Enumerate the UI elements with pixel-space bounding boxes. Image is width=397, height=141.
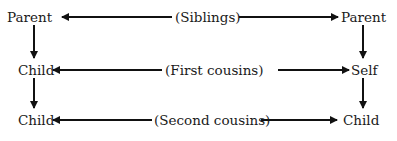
node-child-right: Child [343, 112, 379, 128]
label-second-cousins: (Second cousins) [154, 112, 270, 128]
node-parent-right: Parent [341, 9, 386, 25]
label-siblings: (Siblings) [175, 9, 241, 25]
label-first-cousins: (First cousins) [165, 62, 264, 78]
node-child-left-2: Child [18, 112, 54, 128]
node-self: Self [351, 62, 378, 78]
node-child-left: Child [18, 62, 54, 78]
node-parent-left: Parent [7, 9, 52, 25]
